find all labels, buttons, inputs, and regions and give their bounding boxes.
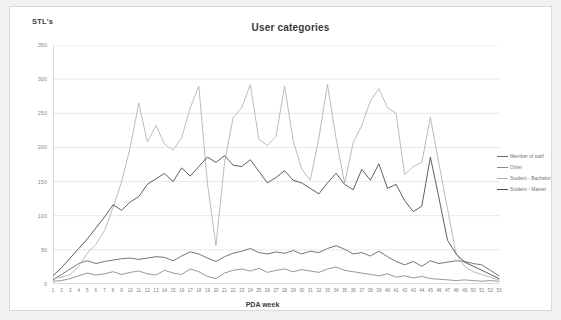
x-tick-label: 17 [188,288,193,293]
x-tick-label: 37 [359,288,364,293]
legend-item-label: Other [510,165,522,170]
x-tick-label: 7 [103,288,106,293]
legend-swatch-icon [497,156,508,157]
x-tick-label: 38 [368,288,373,293]
x-tick-label: 46 [436,288,441,293]
x-tick-label: 30 [299,288,304,293]
x-tick-label: 53 [496,288,501,293]
series-canvas [53,45,500,284]
y-axis-tick-labels: 050100150200250300350 [25,45,51,284]
x-tick-label: 47 [445,288,450,293]
x-tick-label: 20 [213,288,218,293]
x-tick-label: 22 [231,288,236,293]
x-tick-label: 16 [179,288,184,293]
x-tick-label: 40 [385,288,390,293]
legend-swatch-icon [497,189,508,190]
x-tick-label: 15 [171,288,176,293]
x-tick-label: 27 [273,288,278,293]
x-tick-label: 5 [86,288,89,293]
x-tick-label: 43 [411,288,416,293]
x-tick-label: 50 [471,288,476,293]
x-tick-label: 6 [95,288,98,293]
legend-item-label: Student - Bachelor [510,176,551,181]
x-tick-label: 42 [402,288,407,293]
x-tick-label: 14 [162,288,167,293]
x-tick-label: 39 [376,288,381,293]
x-axis-tick-labels: 1234567891011121314151617181920212223242… [53,288,500,298]
x-tick-label: 36 [351,288,356,293]
x-axis-title: PDA week [10,301,515,308]
legend-item-label: Student - Master [510,187,546,192]
x-tick-label: 2 [60,288,63,293]
x-tick-label: 12 [145,288,150,293]
x-tick-label: 26 [265,288,270,293]
x-tick-label: 34 [333,288,338,293]
y-tick-label: 0 [25,281,47,287]
chart-legend: Member of staffOtherStudent - BachelorSt… [497,151,561,195]
x-tick-label: 49 [462,288,467,293]
series-line [53,267,499,281]
x-tick-label: 10 [128,288,133,293]
y-tick-label: 100 [25,213,47,219]
legend-item[interactable]: Student - Bachelor [497,173,561,183]
legend-item[interactable]: Member of staff [497,151,561,161]
chart-title: User categories [10,22,561,33]
legend-item[interactable]: Student - Master [497,184,561,194]
y-tick-label: 150 [25,179,47,185]
x-tick-label: 31 [308,288,313,293]
x-tick-label: 33 [325,288,330,293]
x-tick-label: 18 [196,288,201,293]
x-tick-label: 52 [488,288,493,293]
x-tick-label: 41 [394,288,399,293]
series-line [53,156,499,279]
y-tick-label: 300 [25,76,47,82]
x-tick-label: 51 [479,288,484,293]
x-tick-label: 8 [112,288,115,293]
x-tick-label: 35 [342,288,347,293]
x-tick-label: 32 [316,288,321,293]
chart-page: STL's User categories 050100150200250300… [0,0,561,320]
x-tick-label: 23 [239,288,244,293]
y-tick-label: 250 [25,110,47,116]
plot-area [53,45,500,284]
series-line [53,85,499,280]
series-line [53,246,499,280]
x-tick-label: 21 [222,288,227,293]
x-tick-label: 24 [248,288,253,293]
x-tick-label: 13 [153,288,158,293]
y-tick-label: 50 [25,247,47,253]
legend-swatch-icon [497,167,508,168]
y-tick-label: 350 [25,42,47,48]
x-tick-label: 4 [77,288,80,293]
y-tick-label: 200 [25,144,47,150]
legend-item[interactable]: Other [497,162,561,172]
x-tick-label: 44 [419,288,424,293]
x-tick-label: 19 [205,288,210,293]
x-tick-label: 9 [120,288,123,293]
x-tick-label: 25 [256,288,261,293]
x-tick-label: 11 [136,288,141,293]
legend-swatch-icon [497,178,508,179]
legend-item-label: Member of staff [510,154,544,159]
x-tick-label: 3 [69,288,72,293]
x-tick-label: 1 [52,288,55,293]
x-tick-label: 45 [428,288,433,293]
x-tick-label: 48 [454,288,459,293]
x-tick-label: 28 [282,288,287,293]
chart-card: STL's User categories 050100150200250300… [9,6,552,311]
x-tick-label: 29 [291,288,296,293]
